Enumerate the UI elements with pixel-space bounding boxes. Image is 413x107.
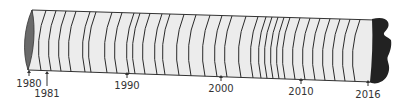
tree-core-diagram: 198019811990200020102016 (0, 0, 413, 107)
year-label-2010: 2010 (288, 87, 313, 97)
year-label-1990: 1990 (114, 81, 139, 91)
arrow-up-icon (45, 71, 49, 74)
year-label-1981: 1981 (34, 89, 59, 99)
year-label-2000: 2000 (208, 84, 233, 94)
bark-icon (370, 18, 391, 83)
year-label-2016: 2016 (355, 90, 380, 100)
tree-core-illustration (0, 0, 413, 107)
